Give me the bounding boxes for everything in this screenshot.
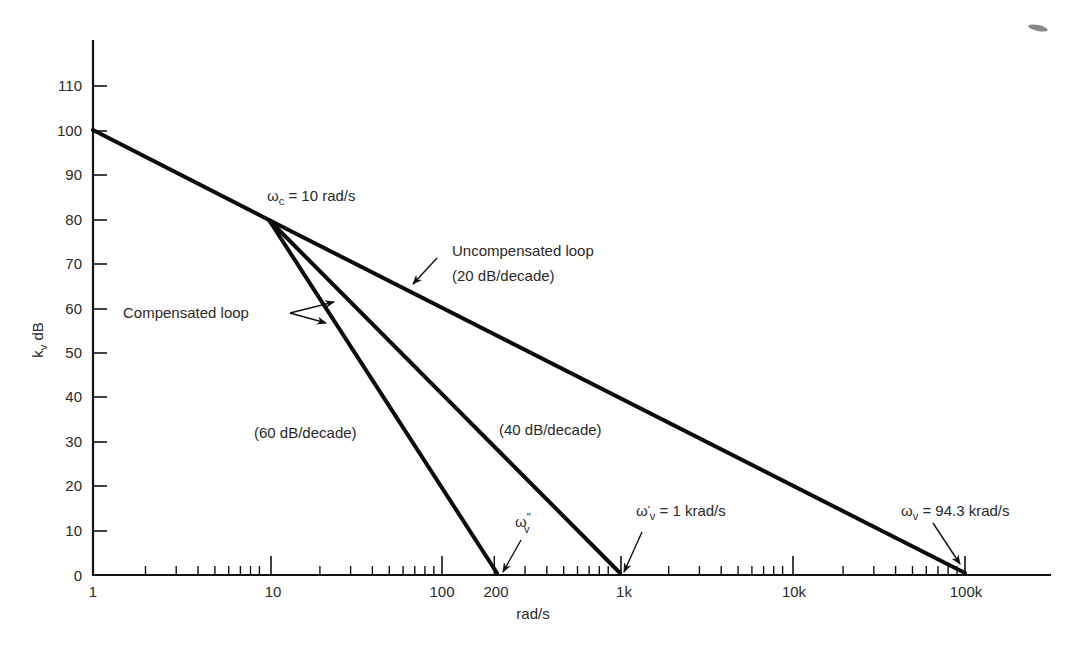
y-tick-70: 70	[65, 255, 82, 272]
y-tick-110: 110	[58, 77, 82, 94]
x-axis: 1 10 100 200 1k 10k 100k rad/s	[89, 556, 1051, 622]
wvpp-arrow	[503, 540, 521, 572]
wvpp-label: ω''v	[515, 511, 531, 535]
wv-label: ωv = 94.3 krad/s	[901, 502, 1010, 522]
uncompensated-label-line2: (20 dB/decade)	[452, 267, 555, 284]
y-tick-50: 50	[65, 344, 82, 361]
uncompensated-loop-line	[93, 130, 965, 573]
x-tick-100k: 100k	[950, 583, 983, 600]
y-tick-20: 20	[65, 477, 82, 494]
compensated-label: Compensated loop	[123, 304, 249, 321]
x-minor-ticks	[145, 556, 957, 575]
compensated-40db-line	[269, 220, 620, 573]
x-tick-10: 10	[265, 583, 282, 600]
y-tick-60: 60	[65, 300, 82, 317]
y-tick-10: 10	[65, 522, 82, 539]
scan-smudge	[1028, 23, 1049, 33]
x-axis-label: rad/s	[516, 605, 549, 622]
uncompensated-arrow	[413, 258, 437, 284]
y-tick-90: 90	[65, 166, 82, 183]
y-tick-0: 0	[74, 567, 82, 584]
y-tick-30: 30	[65, 433, 82, 450]
compensated-arrow-60	[290, 313, 326, 323]
wc-label: ωc = 10 rad/s	[267, 187, 356, 207]
bode-plot: 0 10 20 30 40 50 60 70 80 90 100 110 kv …	[0, 0, 1074, 658]
y-tick-40: 40	[65, 388, 82, 405]
y-tick-80: 80	[65, 211, 82, 228]
wvp-arrow	[624, 532, 642, 572]
x-tick-1: 1	[89, 583, 97, 600]
uncompensated-label-line1: Uncompensated loop	[452, 242, 594, 259]
y-axis: 0 10 20 30 40 50 60 70 80 90 100 110 kv …	[29, 40, 107, 584]
x-tick-10k: 10k	[782, 583, 807, 600]
slope-40-label: (40 dB/decade)	[499, 421, 602, 438]
x-tick-200: 200	[483, 583, 508, 600]
slope-60-label: (60 dB/decade)	[254, 424, 357, 441]
y-axis-label: kv dB	[29, 322, 49, 358]
y-tick-100: 100	[57, 122, 82, 139]
wvp-label: ω'v = 1 krad/s	[636, 502, 726, 522]
x-tick-100: 100	[429, 583, 454, 600]
x-tick-1k: 1k	[616, 583, 632, 600]
